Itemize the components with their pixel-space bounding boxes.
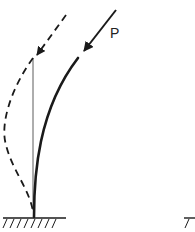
buckled-load-arrow — [37, 15, 66, 55]
second-support-partial — [184, 218, 195, 228]
deflected-column — [34, 58, 78, 217]
ground-support — [3, 218, 66, 228]
buckled-mode — [4, 58, 33, 212]
column-buckling-diagram: P — [0, 0, 195, 232]
load-label: P — [110, 25, 119, 41]
